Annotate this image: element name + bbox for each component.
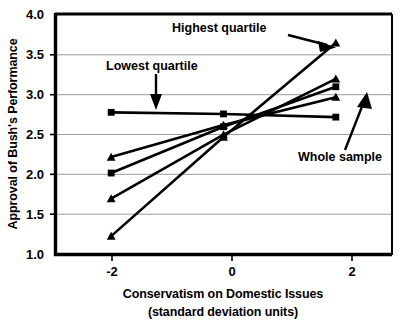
annotation-highest-quartile: Highest quartile xyxy=(172,21,267,35)
ytick-label-3.0: 3.0 xyxy=(26,87,44,102)
ytick-label-2.0: 2.0 xyxy=(26,167,44,182)
ytick-label-1.0: 1.0 xyxy=(26,247,44,262)
ytick-label-4.0: 4.0 xyxy=(26,7,44,22)
marker-square xyxy=(108,170,115,177)
annotation-whole-sample: Whole sample xyxy=(298,150,382,164)
marker-square xyxy=(108,109,115,116)
xtick-label-0: 0 xyxy=(228,264,235,279)
ytick-label-2.5: 2.5 xyxy=(26,127,44,142)
marker-square xyxy=(220,123,227,130)
xtick-label-2: 2 xyxy=(348,264,355,279)
annotation-lowest-quartile: Lowest quartile xyxy=(106,59,198,73)
xtick-label--2: -2 xyxy=(106,264,118,279)
chart-figure: 4.0 3.5 3.0 2.5 2.0 1.5 1.0 -2 0 2 Appro… xyxy=(0,0,420,324)
y-axis-title: Approval of Bush's Performance xyxy=(6,38,20,229)
marker-square xyxy=(332,114,339,121)
marker-square xyxy=(332,83,339,90)
ytick-label-1.5: 1.5 xyxy=(26,207,44,222)
x-axis-subtitle: (standard deviation units) xyxy=(148,305,298,319)
x-axis-title: Conservatism on Domestic Issues xyxy=(123,287,324,301)
approval-vs-conservatism-line-chart: 4.0 3.5 3.0 2.5 2.0 1.5 1.0 -2 0 2 Appro… xyxy=(0,0,420,324)
marker-square xyxy=(220,111,227,118)
ytick-label-3.5: 3.5 xyxy=(26,47,44,62)
